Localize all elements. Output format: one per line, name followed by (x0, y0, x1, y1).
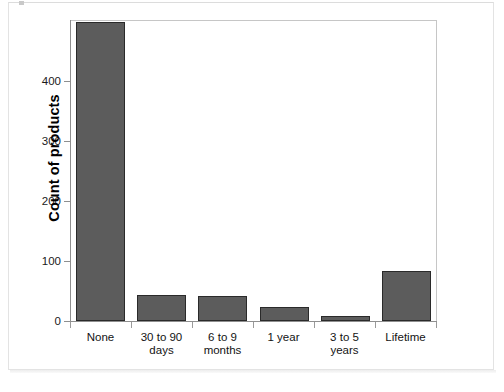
y-axis-title: Count of products (46, 58, 62, 258)
x-tick-label-line: years (314, 344, 375, 357)
x-tick-mark-0 (70, 322, 71, 328)
y-tick-mark-400 (64, 81, 70, 82)
x-tick-label-line: None (70, 331, 131, 344)
y-tick-mark-100 (64, 261, 70, 262)
bar-1-year[interactable] (260, 307, 309, 321)
bar-none[interactable] (76, 22, 125, 321)
bar-chart: 400 300 200 100 0 Count of products None… (0, 0, 504, 392)
x-tick-mark-5 (375, 322, 376, 328)
x-tick-label-line: 6 to 9 (192, 331, 253, 344)
x-tick-mark-2 (192, 322, 193, 328)
x-tick-label-line: 3 to 5 (314, 331, 375, 344)
y-axis-line (70, 20, 71, 322)
y-tick-mark-300 (64, 141, 70, 142)
x-tick-mark-4 (314, 322, 315, 328)
bar-30-to-90-days[interactable] (137, 295, 186, 321)
x-tick-label-30-to-90-days: 30 to 90 days (131, 331, 192, 357)
x-tick-label-lifetime: Lifetime (375, 331, 436, 344)
x-tick-label-line: Lifetime (375, 331, 436, 344)
bar-6-to-9-months[interactable] (198, 296, 247, 321)
x-tick-mark-3 (253, 322, 254, 328)
x-tick-label-6-to-9-months: 6 to 9 months (192, 331, 253, 357)
x-tick-mark-1 (131, 322, 132, 328)
x-tick-label-1-year: 1 year (253, 331, 314, 344)
x-tick-label-line: 30 to 90 (131, 331, 192, 344)
bar-lifetime[interactable] (382, 271, 431, 321)
x-tick-label-line: months (192, 344, 253, 357)
bar-3-to-5-years[interactable] (321, 316, 370, 321)
x-tick-label-line: days (131, 344, 192, 357)
x-tick-label-line: 1 year (253, 331, 314, 344)
y-tick-mark-200 (64, 201, 70, 202)
y-tick-label-0: 0 (55, 315, 61, 327)
x-tick-label-none: None (70, 331, 131, 344)
x-tick-mark-6 (436, 322, 437, 328)
x-tick-label-3-to-5-years: 3 to 5 years (314, 331, 375, 357)
